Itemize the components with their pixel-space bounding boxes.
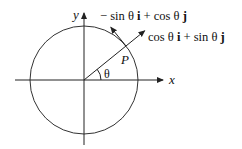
angle-label: θ xyxy=(104,67,110,81)
radial-vector-arrow xyxy=(84,31,145,80)
angle-arc xyxy=(97,69,101,80)
tangential-vector-label: − sin θ i + cos θ j xyxy=(100,9,187,23)
y-axis-label: y xyxy=(71,7,79,22)
point-label: P xyxy=(120,52,129,67)
tangential-vector-arrow xyxy=(111,27,126,46)
x-axis-label: x xyxy=(168,72,175,87)
unit-circle-diagram: x y P θ − sin θ i + cos θ j cos θ i + si… xyxy=(0,0,242,149)
radial-vector-label: cos θ i + sin θ j xyxy=(148,30,225,44)
